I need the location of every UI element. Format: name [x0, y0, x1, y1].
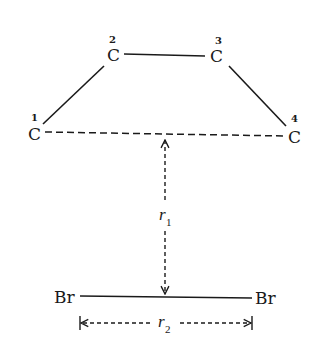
dashed-c1-c4 [45, 132, 285, 136]
r1-label: r [159, 205, 166, 224]
atom-c3: C [210, 46, 223, 66]
atom-number-3: 3 [215, 35, 222, 46]
atom-br-right: Br [255, 288, 276, 308]
bond-c1-c2 [43, 66, 104, 124]
bond-c3-c4 [229, 66, 286, 126]
bond-br-br [80, 296, 252, 298]
bond-c2-c3 [124, 54, 205, 56]
atom-c2: C [107, 45, 120, 65]
atom-number-1: 1 [31, 112, 38, 123]
atom-number-4: 4 [291, 113, 298, 124]
r2-label: r [158, 312, 165, 331]
atom-br-left: Br [54, 287, 75, 307]
atom-number-2: 2 [109, 34, 116, 45]
r1-subscript: 1 [166, 216, 172, 228]
r2-subscript: 2 [165, 323, 171, 335]
atom-c1: C [28, 124, 41, 144]
molecule-diagram: 1 C 2 C 3 C 4 C Br Br r 1 r 2 [0, 0, 319, 353]
atom-c4: C [288, 127, 301, 147]
